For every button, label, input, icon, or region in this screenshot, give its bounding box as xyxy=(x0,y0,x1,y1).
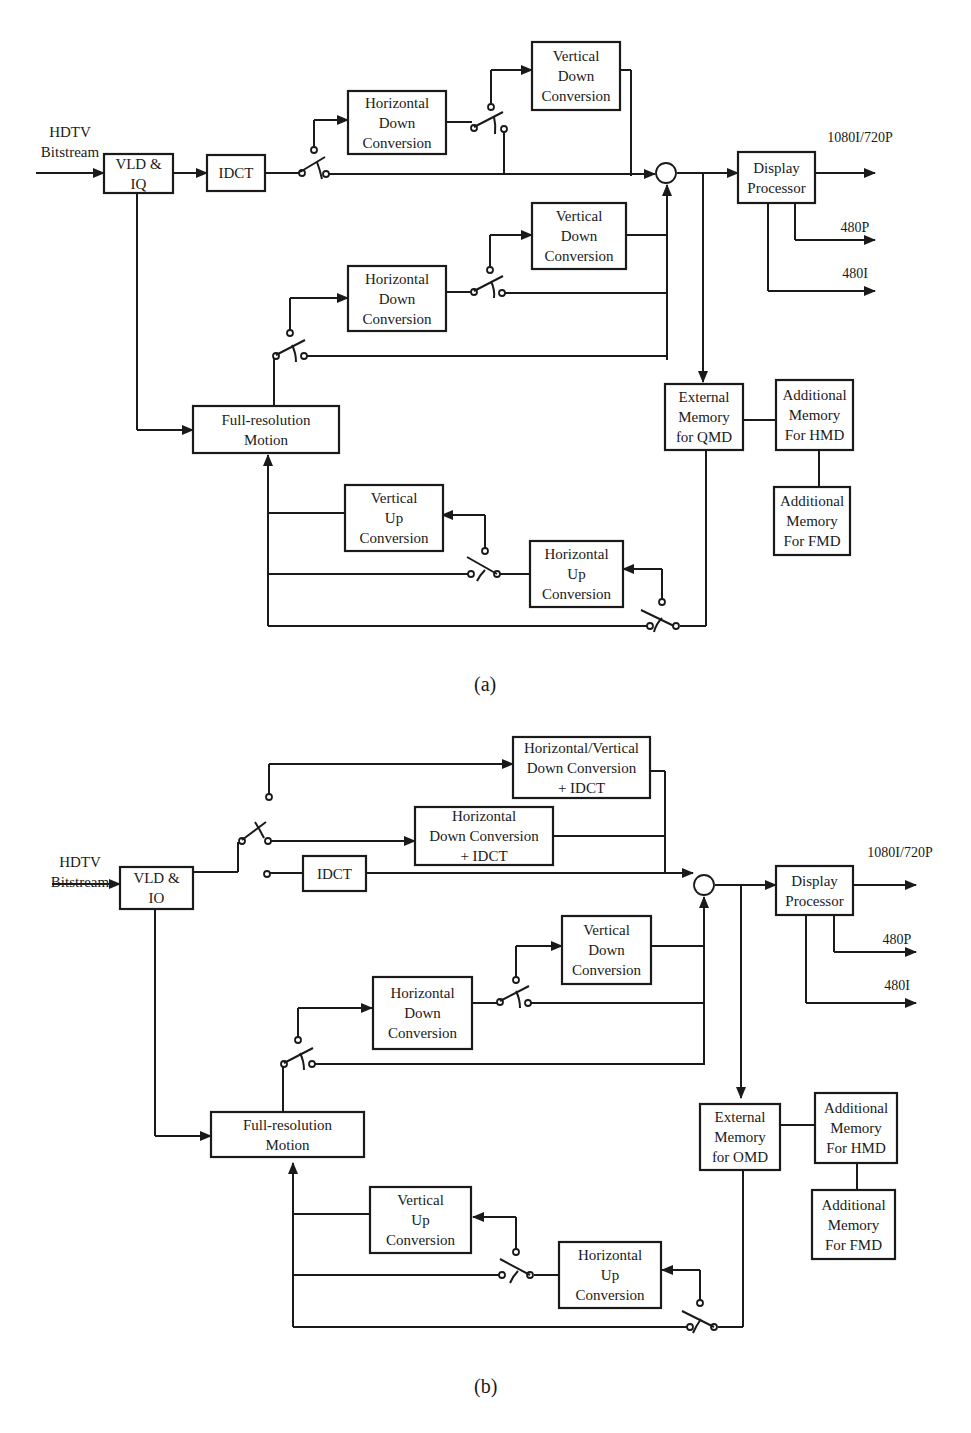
h-down-conversion-idct-b: Horizontal Down Conversion + IDCT xyxy=(415,807,553,865)
horizontal-up-conversion-a: Horizontal Up Conversion xyxy=(530,541,623,607)
output-label-480p-a: 480P xyxy=(830,218,880,238)
output-label-480p-b: 480P xyxy=(872,930,922,950)
vld-iq-block-a: VLD & IQ xyxy=(104,154,173,193)
additional-memory-fmd-b: Additional Memory For FMD xyxy=(812,1190,895,1259)
vertical-down-conversion-b: Vertical Down Conversion xyxy=(562,916,651,984)
output-label-1080i-a: 1080I/720P xyxy=(815,128,905,148)
horizontal-down-conversion-top-a: Horizontal Down Conversion xyxy=(348,91,446,154)
additional-memory-hmd-a: Additional Memory For HMD xyxy=(776,380,853,450)
idct-block-b: IDCT xyxy=(303,856,366,891)
external-memory-a: External Memory for QMD xyxy=(665,384,743,450)
output-label-480i-a: 480I xyxy=(830,264,880,284)
input-label-a: HDTV Bitstream xyxy=(34,122,106,162)
vertical-up-conversion-a: Vertical Up Conversion xyxy=(345,485,443,551)
horizontal-down-conversion-b: Horizontal Down Conversion xyxy=(373,977,472,1049)
display-processor-b: Display Processor xyxy=(776,866,853,915)
hv-down-conversion-idct-b: Horizontal/Vertical Down Conversion + ID… xyxy=(513,737,650,798)
vld-io-block-b: VLD & IO xyxy=(120,867,193,909)
input-label-b: HDTV Bitstream xyxy=(40,852,120,892)
display-processor-a: Display Processor xyxy=(738,152,815,203)
diagram-a-box-frames xyxy=(104,42,853,607)
horizontal-down-conversion-mid-a: Horizontal Down Conversion xyxy=(348,266,446,331)
output-label-480i-b: 480I xyxy=(872,976,922,996)
horizontal-up-conversion-b: Horizontal Up Conversion xyxy=(559,1242,661,1308)
full-resolution-motion-block-b: Full-resolution Motion xyxy=(211,1112,364,1157)
additional-memory-hmd-b: Additional Memory For HMD xyxy=(815,1093,897,1163)
external-memory-b: External Memory for OMD xyxy=(700,1104,780,1170)
caption-b: (b) xyxy=(474,1375,497,1398)
vertical-down-conversion-mid-a: Vertical Down Conversion xyxy=(532,203,626,269)
idct-block-a: IDCT xyxy=(207,155,265,191)
full-resolution-motion-block-a: Full-resolution Motion xyxy=(193,406,339,453)
output-label-1080i-b: 1080I/720P xyxy=(855,843,945,863)
vertical-up-conversion-b: Vertical Up Conversion xyxy=(370,1187,471,1253)
vertical-down-conversion-top-a: Vertical Down Conversion xyxy=(532,42,620,110)
caption-a: (a) xyxy=(474,673,496,696)
additional-memory-fmd-a: Additional Memory For FMD xyxy=(774,487,850,555)
